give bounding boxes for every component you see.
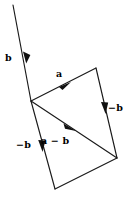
label-vector-b: b	[5, 53, 12, 63]
label-vector-minus-b-right: −b	[108, 103, 123, 113]
vector-a-line	[31, 68, 96, 101]
label-vector-a: a	[56, 69, 62, 79]
label-vector-minus-b-left: −b	[16, 140, 31, 150]
parallelogram-bottom-edge	[55, 158, 117, 189]
vector-b-line	[13, 5, 31, 101]
vector-diagram-figure: b a −b −b a − b	[0, 0, 130, 204]
vector-minus-b-right-line	[96, 68, 117, 158]
vector-a-minus-b-arrowhead	[64, 124, 77, 132]
label-vector-a-minus-b: a − b	[41, 136, 69, 146]
